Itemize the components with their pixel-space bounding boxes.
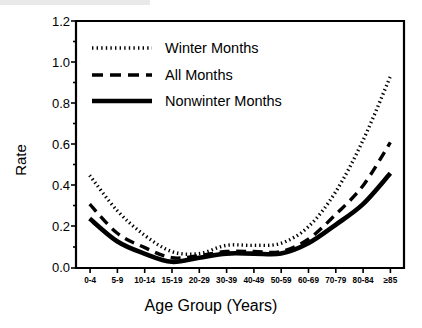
x-tick-label: 80-84 xyxy=(353,276,374,285)
y-tick-label: 1.2 xyxy=(52,14,70,29)
y-tick-label: 0.4 xyxy=(52,178,70,193)
y-tick-label: 1.0 xyxy=(52,55,70,70)
chart-legend: Winter Months All Months Nonwinter Month… xyxy=(92,40,282,109)
x-tick-label: 70-79 xyxy=(325,276,346,285)
y-tick-label: 0.2 xyxy=(52,219,70,234)
legend-label-all: All Months xyxy=(165,67,233,83)
x-tick-label: 5-9 xyxy=(111,276,123,285)
y-tick-label: 0.8 xyxy=(52,96,70,111)
x-axis-title: Age Group (Years) xyxy=(145,297,278,314)
x-tick-label: 30-39 xyxy=(216,276,237,285)
y-tick-label: 0.6 xyxy=(52,137,70,152)
x-tick-label: 60-69 xyxy=(298,276,319,285)
legend-label-winter: Winter Months xyxy=(165,40,258,56)
x-tick-label: 10-14 xyxy=(134,276,155,285)
x-tick-label: 0-4 xyxy=(84,276,96,285)
chart-figure: Rate 1.2 1.0 0.8 0.6 0.4 0.2 0.0 xyxy=(0,0,422,328)
x-tick-label: 20-29 xyxy=(189,276,210,285)
x-tick-label: 50-59 xyxy=(271,276,292,285)
y-axis-title: Rate xyxy=(12,144,29,176)
x-tick-label: ≥85 xyxy=(384,276,398,285)
series-line-all-months xyxy=(90,142,391,258)
series-line-nonwinter-months xyxy=(90,173,391,262)
x-tick-labels: 0-4 5-9 10-14 15-19 20-29 30-39 40-49 50… xyxy=(84,276,397,285)
legend-label-nonwinter: Nonwinter Months xyxy=(165,93,282,109)
rate-by-age-group-line-chart: Rate 1.2 1.0 0.8 0.6 0.4 0.2 0.0 xyxy=(0,0,422,328)
y-tick-label: 0.0 xyxy=(52,260,70,275)
scan-artifact xyxy=(0,0,150,5)
x-tick-label: 15-19 xyxy=(162,276,183,285)
plot-frame xyxy=(76,21,404,268)
x-tick-label: 40-49 xyxy=(243,276,264,285)
y-tick-labels: 1.2 1.0 0.8 0.6 0.4 0.2 0.0 xyxy=(52,14,70,275)
